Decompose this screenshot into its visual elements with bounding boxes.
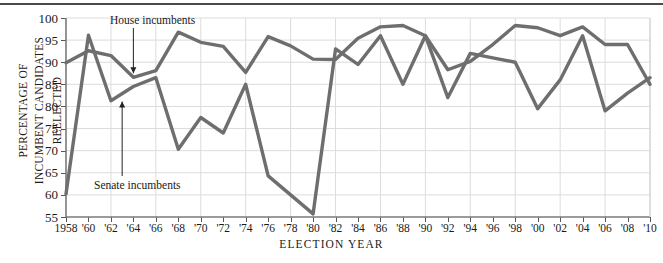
arrow-senate-incumbents — [119, 102, 125, 176]
annotation-arrows — [119, 28, 136, 176]
arrow-house-incumbents — [130, 28, 136, 73]
plot-canvas — [0, 0, 663, 263]
x-axis-label: ELECTION YEAR — [0, 238, 663, 250]
annotation-house-incumbents: House incumbents — [110, 14, 195, 27]
incumbent-reelection-line-chart: PERCENTAGE OF INCUMBENT CANDIDATES REELE… — [0, 0, 663, 263]
annotation-senate-incumbents: Senate incumbents — [94, 179, 181, 192]
